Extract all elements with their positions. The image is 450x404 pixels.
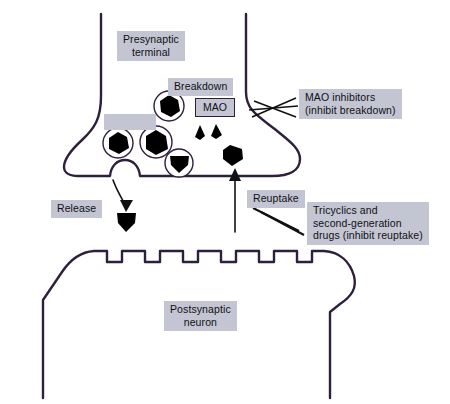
reuptake-arrow [229,168,241,232]
label-mao-inhibitors: MAO inhibitors (inhibit breakdown) [299,89,402,119]
label-mao-enzyme: MAO [195,98,235,117]
label-tricyclics-and-second-generation-drugs: Tricyclics and second-generation drugs (… [307,202,429,245]
release-arrow [113,180,133,212]
nt-reuptake-blob [223,145,243,166]
nt-fragment-left [195,125,205,140]
vesicle-2 [103,128,133,158]
label-breakdown: Breakdown [168,78,233,96]
nt-released-blob [117,213,136,232]
label-postsynaptic-neuron: Postsynaptic neuron [164,301,237,331]
label-release: Release [51,200,102,218]
vesicle-3 [140,126,172,158]
nt-fragment-right [211,124,222,139]
vesicle-4 [165,149,193,177]
label-presynaptic-terminal: Presynaptic terminal [117,31,185,61]
label-reuptake: Reuptake [247,190,305,208]
label-blank-box [104,114,156,130]
vesicle-1 [154,91,184,121]
reuptake-inhibition-marker [253,208,304,235]
neurotransmitter-molecules [117,124,243,232]
synapse-diagram: Presynaptic terminal Breakdown MAO MAO i… [0,0,450,404]
